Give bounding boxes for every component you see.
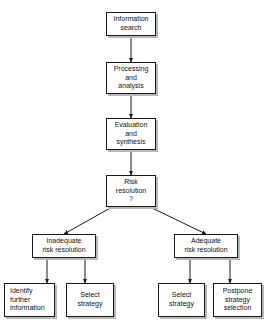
node-label-select-strategy-left: Select strategy [76, 291, 105, 308]
node-identify-further-information[interactable]: Identify further information [4, 283, 55, 317]
node-risk-resolution[interactable]: Risk resolution ? [106, 175, 156, 207]
node-label-inadequate-risk-resolution: Inadequate risk resolution [40, 237, 87, 254]
connector-risk-resolution-to-adequate [150, 207, 206, 234]
connector-risk-resolution-to-inadequate [64, 207, 112, 234]
node-processing-and-analysis[interactable]: Processing and analysis [106, 62, 156, 94]
node-select-strategy-left[interactable]: Select strategy [66, 283, 114, 317]
node-label-risk-resolution: Risk resolution ? [114, 178, 148, 204]
node-label-adequate-risk-resolution: Adequate risk resolution [182, 237, 229, 254]
node-information-search[interactable]: Information search [106, 12, 156, 36]
node-label-evaluation-and-synthesis: Evaluation and synthesis [113, 121, 150, 147]
node-label-postpone-strategy-selection: Postpone strategy selection [221, 287, 255, 313]
node-evaluation-and-synthesis[interactable]: Evaluation and synthesis [106, 118, 156, 150]
node-adequate-risk-resolution[interactable]: Adequate risk resolution [174, 234, 238, 258]
node-select-strategy-right[interactable]: Select strategy [158, 283, 205, 317]
flowchart-canvas: Information searchProcessing and analysi… [0, 0, 272, 332]
node-label-identify-further-information: Identify further information [5, 287, 54, 313]
node-postpone-strategy-selection[interactable]: Postpone strategy selection [213, 283, 262, 317]
node-inadequate-risk-resolution[interactable]: Inadequate risk resolution [32, 234, 96, 258]
node-label-information-search: Information search [111, 15, 150, 32]
node-label-processing-and-analysis: Processing and analysis [112, 65, 151, 91]
node-label-select-strategy-right: Select strategy [167, 291, 196, 308]
